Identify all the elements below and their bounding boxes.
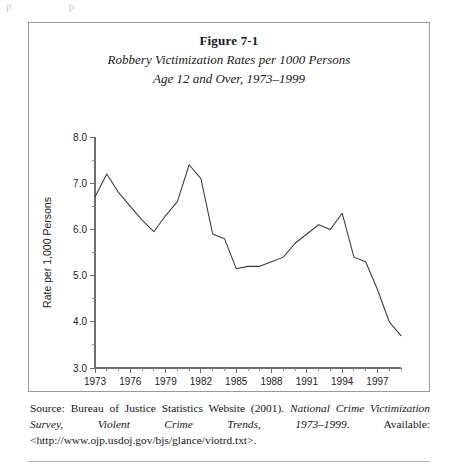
x-axis-tick-label: 1985 — [225, 376, 248, 387]
y-axis-tick-label: 7.0 — [73, 178, 87, 189]
y-axis-title: Rate per 1,000 Persons — [41, 197, 53, 308]
y-axis-tick-label: 4.0 — [73, 316, 87, 327]
figure-subtitle-line1: Robbery Victimization Rates per 1000 Per… — [29, 52, 429, 68]
line-chart: 3.04.05.06.07.08.01973197619791982198519… — [29, 95, 429, 391]
x-axis-tick-label: 1997 — [366, 376, 389, 387]
data-series-line — [95, 165, 401, 336]
source-prefix: Source: Bureau of Justice Statistics Web… — [30, 402, 290, 414]
y-axis-tick-label: 6.0 — [73, 224, 87, 235]
x-axis-tick-label: 1976 — [119, 376, 142, 387]
y-axis-tick-label: 3.0 — [73, 363, 87, 374]
figure-subtitle-line2: Age 12 and Over, 1973–1999 — [29, 71, 429, 87]
chart-svg: 3.04.05.06.07.08.01973197619791982198519… — [29, 95, 429, 391]
x-axis-tick-label: 1979 — [154, 376, 177, 387]
page-divider — [28, 461, 430, 462]
x-axis-tick-label: 1988 — [260, 376, 283, 387]
x-axis-tick-label: 1982 — [190, 376, 213, 387]
source-citation: Source: Bureau of Justice Statistics Web… — [30, 400, 430, 449]
y-axis-tick-label: 8.0 — [73, 132, 87, 143]
x-axis-tick-label: 1973 — [84, 376, 107, 387]
figure-number: Figure 7-1 — [29, 33, 429, 49]
x-axis-tick-label: 1994 — [331, 376, 354, 387]
y-axis-tick-label: 5.0 — [73, 270, 87, 281]
x-axis-tick-label: 1991 — [296, 376, 319, 387]
scan-artifact: p p — [0, 0, 454, 16]
figure-container: Figure 7-1 Robbery Victimization Rates p… — [28, 22, 430, 392]
